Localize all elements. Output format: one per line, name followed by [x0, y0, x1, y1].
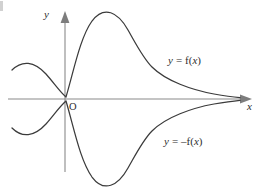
curve-f-label-equals: = [176, 54, 182, 66]
x-axis-label: x [247, 101, 252, 112]
curve-f-of-x [12, 12, 240, 98]
math-figure: y x O y=f(x) y=–f(x) [0, 0, 263, 188]
y-axis-arrowhead [61, 11, 70, 23]
curve-neg-f-label-equals: = [172, 135, 178, 147]
graph-canvas [0, 0, 263, 188]
curve-negative-f-of-x [12, 100, 240, 186]
curve-f-label: y=f(x) [168, 55, 201, 66]
curve-neg-f-label: y=–f(x) [164, 136, 203, 147]
curve-f-label-paren: ) [197, 54, 201, 66]
curve-neg-f-label-function: f( [187, 135, 194, 147]
curve-neg-f-label-y: y [164, 135, 169, 147]
curve-f-label-y: y [168, 54, 173, 66]
curve-neg-f-label-paren: ) [199, 135, 203, 147]
origin-label: O [69, 102, 77, 113]
y-axis-label: y [44, 9, 49, 20]
